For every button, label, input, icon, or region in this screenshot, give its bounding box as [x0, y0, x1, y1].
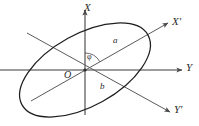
- axis-y-prime-line: [27, 33, 170, 112]
- origin-point: [83, 68, 86, 71]
- axis-x-label: X: [84, 2, 91, 13]
- axis-y-prime-label: Y′: [174, 104, 183, 115]
- rotation-angle-label: φ: [87, 53, 92, 61]
- figure-canvas: [0, 0, 199, 126]
- semi-major-label: a: [113, 36, 118, 45]
- semi-minor-label: b: [100, 82, 105, 91]
- origin-label: O: [64, 70, 71, 80]
- axis-x-prime-label: X′: [172, 16, 181, 27]
- axis-y-label: Y: [186, 62, 192, 73]
- geometry-figure: X X′ Y Y′ a b O φ: [0, 0, 199, 126]
